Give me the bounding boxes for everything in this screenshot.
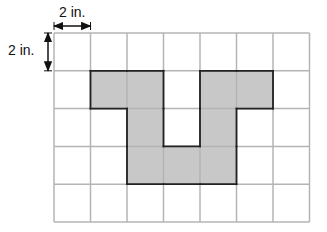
shaded-cell [127, 71, 164, 109]
shaded-cell [200, 109, 237, 147]
shaded-cell [127, 146, 164, 184]
shaded-cell [91, 71, 128, 109]
grid-diagram: 2 in. 2 in. [0, 0, 327, 232]
shaded-cell [164, 146, 201, 184]
shaded-cell [200, 71, 237, 109]
shaded-cell [237, 71, 274, 109]
shaded-cell [127, 109, 164, 147]
shaded-cell [200, 146, 237, 184]
grid-canvas [0, 0, 327, 232]
